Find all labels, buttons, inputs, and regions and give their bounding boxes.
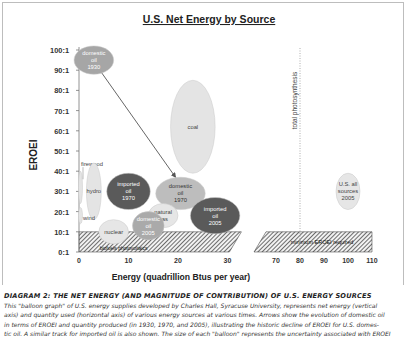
y-tick-label: 100:1 <box>50 46 69 55</box>
balloon-label: oil <box>126 188 132 194</box>
chart: U.S. Net Energy by Source minimum EROEI … <box>0 0 410 290</box>
x-axis-label: Energy (quadrillion Btus per year) <box>112 272 251 282</box>
caption-line: This "balloon graph" of U.S. energy supp… <box>4 301 404 310</box>
balloon-label: 2005 <box>142 230 155 236</box>
balloon-shape <box>78 171 82 203</box>
balloon: importedoil1970 <box>107 173 151 209</box>
balloon: nuclear <box>99 220 129 244</box>
balloon: U.S. allsources2005 <box>336 173 360 209</box>
y-axis-label: EROEI <box>28 139 39 170</box>
balloon-label: 2005 <box>209 220 222 226</box>
x-tick-label: 90 <box>320 257 328 264</box>
balloon-label: oil <box>145 223 151 229</box>
balloon-label: imported <box>204 206 227 212</box>
x-tick-label: 80 <box>296 257 304 264</box>
x-tick-label: 100 <box>342 257 354 264</box>
x-tick-label: 30 <box>224 257 232 264</box>
balloon: domesticoil2005 <box>132 212 164 240</box>
balloon-label: sources <box>338 188 358 194</box>
balloon-label: oil <box>212 213 218 219</box>
balloon-label: domestic <box>82 50 105 56</box>
x-tick-label: 0 <box>77 257 81 264</box>
caption-title: DIAGRAM 2: THE NET ENERGY (AND MAGNITUDE… <box>4 292 404 300</box>
balloon-label: 1970 <box>122 195 135 201</box>
x-tick-label: 10 <box>125 257 133 264</box>
balloon-label: domestic <box>137 216 160 222</box>
hatched-region-left-label: biofuels photovoltaics <box>100 245 148 251</box>
balloon: coal <box>171 80 216 173</box>
balloon-label: 1970 <box>174 197 187 203</box>
balloon-label: wind <box>82 215 95 221</box>
balloon-label: nuclear <box>104 229 123 235</box>
balloon-label: imported <box>117 181 140 187</box>
balloon-shape <box>78 208 82 224</box>
x-tick-label: 20 <box>174 257 182 264</box>
y-tick-label: 90:1 <box>54 66 69 75</box>
chart-title: U.S. Net Energy by Source <box>143 13 276 25</box>
balloon-label: hydro <box>87 188 102 194</box>
balloon: importedoil2005 <box>190 197 240 233</box>
y-tick-label: 70:1 <box>54 107 69 116</box>
reference-line-label: total photosynthesis <box>291 71 299 129</box>
balloon-label: domestic <box>169 183 192 189</box>
balloon-label: 1930 <box>87 64 100 70</box>
caption-body: This "balloon graph" of U.S. energy supp… <box>4 301 404 339</box>
y-tick-label: 40:1 <box>54 167 69 176</box>
balloon-label: oil <box>178 190 184 196</box>
y-tick-label: 30:1 <box>54 187 69 196</box>
caption-line: axis) and quantity used (horizontal axis… <box>4 310 404 319</box>
y-tick-label: 20:1 <box>54 208 69 217</box>
trend-arrow <box>101 72 175 177</box>
hatched-region-label: minimum EROEI required <box>291 239 354 245</box>
x-tick-label: 110 <box>366 257 377 264</box>
y-tick-label: 0:1 <box>58 248 69 257</box>
balloon-label: U.S. all <box>339 181 358 187</box>
caption-line: in terms of EROEI and quantity produced … <box>4 320 404 329</box>
y-tick-label: 50:1 <box>54 147 69 156</box>
balloon: hydro <box>86 163 101 220</box>
y-tick-label: 60:1 <box>54 127 69 136</box>
caption-line: tic oil. A similar track for imported oi… <box>4 329 404 338</box>
balloon-label: oil <box>91 57 97 63</box>
balloon-label: coal <box>188 124 199 130</box>
y-tick-label: 80:1 <box>54 86 69 95</box>
balloon-label: 2005 <box>342 195 355 201</box>
x-tick-label: 70 <box>272 257 280 264</box>
balloon: domesticoil1930 <box>74 46 114 74</box>
y-tick-label: 10:1 <box>54 228 69 237</box>
